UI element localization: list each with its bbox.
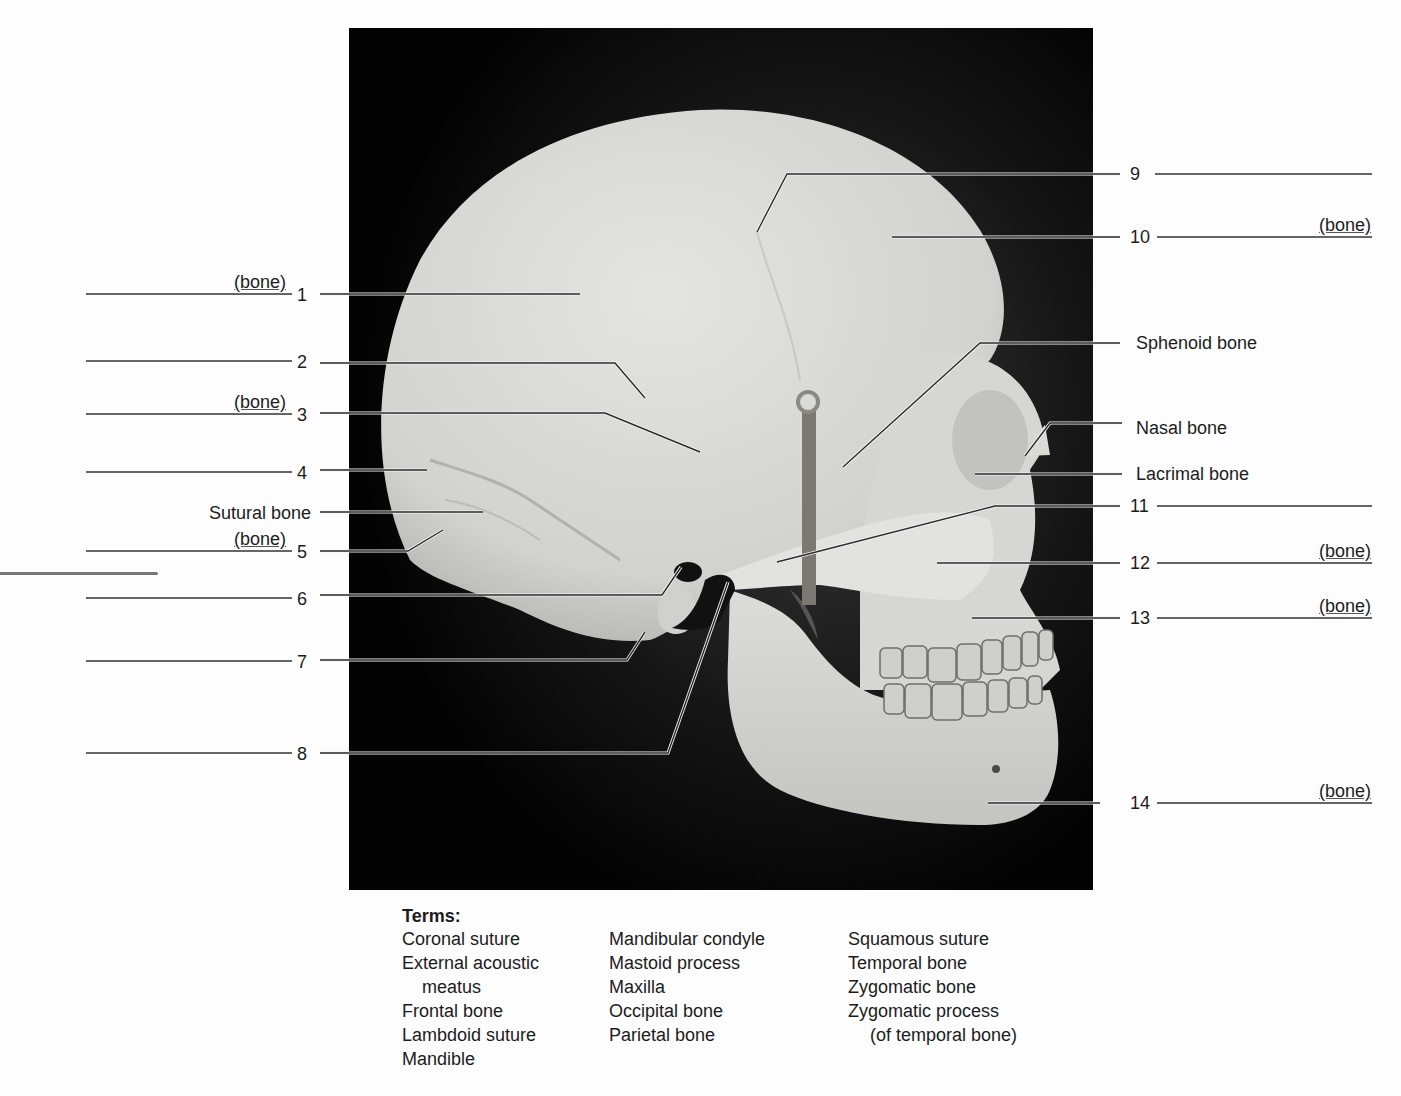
- term: Maxilla: [609, 975, 848, 999]
- label-number-7: 7: [297, 652, 307, 672]
- term: (of temporal bone): [848, 1023, 1098, 1047]
- bone-hint: (bone): [234, 272, 286, 292]
- label-number-8: 8: [297, 744, 307, 764]
- term: Occipital bone: [609, 999, 848, 1023]
- label-number-6: 6: [297, 589, 307, 609]
- terms-column-3: Squamous suture Temporal bone Zygomatic …: [848, 927, 1098, 1071]
- label-number-9: 9: [1130, 164, 1140, 184]
- bone-hint: (bone): [1319, 781, 1371, 801]
- terms-list: Terms: Coronal suture External acoustic …: [402, 905, 1102, 1071]
- term: External acoustic: [402, 951, 609, 975]
- label-nasal: Nasal bone: [1136, 418, 1227, 438]
- skull-photo: [349, 28, 1093, 890]
- label-number-5: 5: [297, 542, 307, 562]
- label-number-4: 4: [297, 463, 307, 483]
- term: meatus: [402, 975, 609, 999]
- label-number-13: 13: [1130, 608, 1150, 628]
- stray-line: [0, 572, 158, 575]
- term: Zygomatic bone: [848, 975, 1098, 999]
- terms-column-2: Mandibular condyle Mastoid process Maxil…: [609, 927, 848, 1071]
- label-number-3: 3: [297, 405, 307, 425]
- bone-hint: (bone): [1319, 215, 1371, 235]
- term: Mastoid process: [609, 951, 848, 975]
- label-number-10: 10: [1130, 227, 1150, 247]
- bone-hint: (bone): [1319, 596, 1371, 616]
- label-lacrimal: Lacrimal bone: [1136, 464, 1249, 484]
- term: Zygomatic process: [848, 999, 1098, 1023]
- term: Parietal bone: [609, 1023, 848, 1047]
- term: Frontal bone: [402, 999, 609, 1023]
- label-number-14: 14: [1130, 793, 1150, 813]
- term: Temporal bone: [848, 951, 1098, 975]
- terms-column-1: Coronal suture External acoustic meatus …: [402, 927, 609, 1071]
- label-number-2: 2: [297, 352, 307, 372]
- term: Mandibular condyle: [609, 927, 848, 951]
- term: Squamous suture: [848, 927, 1098, 951]
- label-number-12: 12: [1130, 553, 1150, 573]
- label-sphenoid: Sphenoid bone: [1136, 333, 1257, 353]
- term: Lambdoid suture: [402, 1023, 609, 1047]
- bone-hint: (bone): [234, 392, 286, 412]
- term: Mandible: [402, 1047, 609, 1071]
- label-sutural: Sutural bone: [209, 503, 311, 523]
- terms-title: Terms:: [402, 905, 1102, 927]
- term: Coronal suture: [402, 927, 609, 951]
- bone-hint: (bone): [1319, 541, 1371, 561]
- label-number-1: 1: [297, 285, 307, 305]
- skull-illustration: [349, 28, 1093, 890]
- bone-hint: (bone): [234, 529, 286, 549]
- label-number-11: 11: [1130, 496, 1149, 516]
